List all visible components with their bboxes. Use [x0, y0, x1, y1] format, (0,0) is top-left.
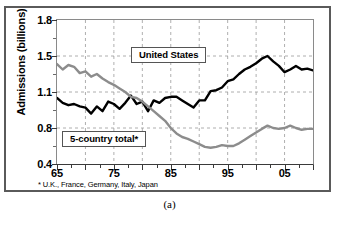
x-tick-label: 05: [279, 167, 291, 179]
footnote-text: * U.K., France, Germany, Italy, Japan: [38, 180, 158, 189]
y-tick-mark-minor: [53, 110, 56, 111]
y-axis-tick-labels: 1.81.51.10.80.4: [14, 19, 52, 165]
y-tick-mark: [52, 56, 57, 57]
y-tick-mark: [52, 128, 57, 129]
y-tick-label: 0.4: [37, 158, 52, 170]
y-tick-mark: [52, 92, 57, 93]
series-line-united-states: [57, 56, 313, 114]
y-tick-mark: [52, 20, 57, 21]
y-tick-label: 1.5: [37, 50, 52, 62]
y-tick-mark-minor: [53, 146, 56, 147]
y-tick-label: 1.1: [37, 86, 52, 98]
x-tick-label: 95: [222, 167, 234, 179]
series-label-five-country-total: 5-country total*: [62, 131, 146, 147]
x-tick-label: 75: [108, 167, 120, 179]
y-tick-label: 0.8: [37, 122, 52, 134]
series-label-united-states: United States: [131, 47, 206, 63]
x-tick-label: 85: [165, 167, 177, 179]
figure-caption: (a): [0, 198, 339, 210]
figure-panel: Admissions (billions) 1.81.51.10.80.4 65…: [0, 0, 339, 230]
y-tick-mark: [52, 164, 57, 165]
y-tick-mark-minor: [53, 74, 56, 75]
y-tick-label: 1.8: [37, 14, 52, 26]
y-tick-mark-minor: [53, 38, 56, 39]
x-tick-label: 65: [51, 167, 63, 179]
horizontal-gridlines: [57, 56, 313, 128]
